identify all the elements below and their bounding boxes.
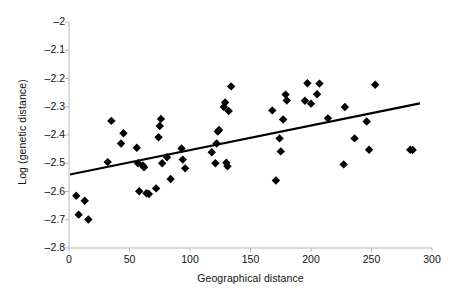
trendline-segment xyxy=(70,103,420,174)
data-point-markers xyxy=(72,79,417,224)
data-point-marker xyxy=(154,133,162,141)
data-point-marker xyxy=(72,192,80,200)
x-axis-ticks xyxy=(69,248,432,252)
data-point-marker xyxy=(227,82,235,90)
data-point-marker xyxy=(279,115,287,123)
trendline xyxy=(70,103,420,174)
data-point-marker xyxy=(181,164,189,172)
data-point-marker xyxy=(283,96,291,104)
data-point-marker xyxy=(365,145,373,153)
data-point-marker xyxy=(107,117,115,125)
data-point-marker xyxy=(313,90,321,98)
data-point-marker xyxy=(281,90,289,98)
data-point-marker xyxy=(158,159,166,167)
scatter-plot-figure: Log (genetic distance) Geographical dist… xyxy=(0,0,467,294)
data-point-marker xyxy=(350,134,358,142)
data-point-marker xyxy=(119,129,127,137)
data-point-marker xyxy=(157,115,165,123)
data-point-marker xyxy=(135,187,143,195)
data-point-marker xyxy=(81,197,89,205)
data-point-marker xyxy=(179,155,187,163)
plot-canvas xyxy=(0,0,467,294)
data-point-marker xyxy=(277,147,285,155)
data-point-marker xyxy=(275,134,283,142)
data-point-marker xyxy=(371,81,379,89)
data-point-marker xyxy=(341,103,349,111)
y-axis-ticks xyxy=(65,22,69,248)
data-point-marker xyxy=(211,159,219,167)
data-point-marker xyxy=(208,148,216,156)
data-point-marker xyxy=(362,117,370,125)
data-point-marker xyxy=(152,184,160,192)
data-point-marker xyxy=(133,144,141,152)
data-point-marker xyxy=(84,215,92,223)
data-point-marker xyxy=(117,139,125,147)
data-point-marker xyxy=(104,158,112,166)
data-point-marker xyxy=(74,210,82,218)
data-point-marker xyxy=(339,160,347,168)
data-point-marker xyxy=(166,175,174,183)
data-point-marker xyxy=(315,79,323,87)
data-point-marker xyxy=(156,122,164,130)
data-point-marker xyxy=(303,79,311,87)
data-point-marker xyxy=(268,106,276,114)
data-point-marker xyxy=(272,176,280,184)
